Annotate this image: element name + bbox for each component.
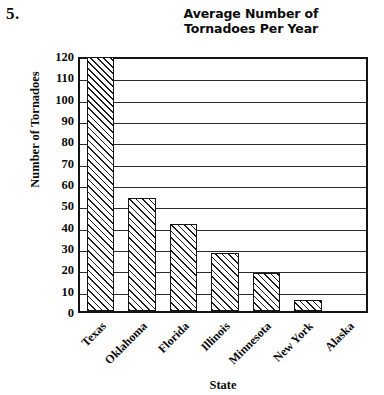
y-tick-label: 60 — [38, 179, 74, 191]
chart-title: Average Number of Tornadoes Per Year — [120, 6, 382, 36]
bars-layer — [80, 59, 366, 311]
x-tick-label-text: Florida — [155, 319, 192, 356]
y-tick-label: 100 — [38, 94, 74, 106]
y-axis-tick-labels: 1201101009080706050403020100 — [38, 57, 74, 313]
x-tick-label-text: Alaska — [322, 319, 358, 355]
bar-texas — [87, 57, 114, 311]
x-tick-label-text: Illinois — [198, 319, 234, 355]
y-tick-label: 40 — [38, 222, 74, 234]
y-tick-label: 50 — [38, 200, 74, 212]
x-tick-label-text: Texas — [78, 319, 109, 350]
plot-area — [78, 57, 368, 313]
chart-title-line-2: Tornadoes Per Year — [120, 21, 382, 36]
y-tick-label: 20 — [38, 264, 74, 276]
x-axis-tick-labels: TexasOklahomaFloridaIllinoisMinnesotaNew… — [78, 313, 368, 375]
chart-title-line-1: Average Number of — [120, 6, 382, 21]
y-tick-label: 10 — [38, 286, 74, 298]
problem-number: 5. — [6, 4, 20, 24]
y-tick-label: 70 — [38, 158, 74, 170]
y-tick-label: 120 — [38, 51, 74, 63]
y-tick-label: 110 — [38, 72, 74, 84]
y-tick-label: 90 — [38, 115, 74, 127]
y-tick-label: 30 — [38, 243, 74, 255]
bar-oklahoma — [128, 198, 155, 311]
y-tick-label: 80 — [38, 136, 74, 148]
x-axis-title: State — [78, 378, 368, 393]
y-tick-label: 0 — [38, 307, 74, 319]
